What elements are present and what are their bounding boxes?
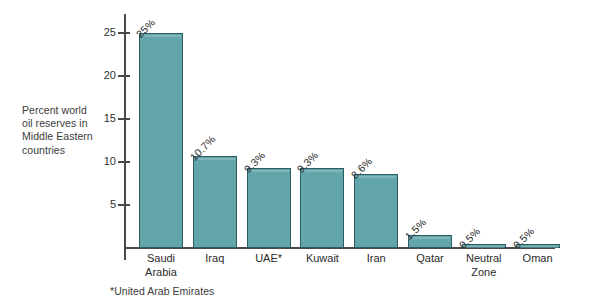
y-axis-line xyxy=(124,14,126,260)
y-axis-tick-label: 20 xyxy=(90,69,116,81)
bar-highlight xyxy=(410,237,450,239)
bar-highlight xyxy=(356,176,396,178)
y-axis-tick-label: 10 xyxy=(90,155,116,167)
y-axis-tick-label: 15 xyxy=(90,112,116,124)
bar-chart: Percent world oil reserves in Middle Eas… xyxy=(0,0,602,304)
bar-highlight xyxy=(302,170,342,172)
bar xyxy=(139,33,183,248)
y-axis-tick xyxy=(118,32,130,34)
bar-highlight xyxy=(141,35,181,37)
bar-highlight xyxy=(195,158,235,160)
y-axis-tick xyxy=(118,118,130,120)
plot-area: 510152025 25%10.7%9.3%9.3%8.6%1.5%0.5%0.… xyxy=(0,0,602,304)
y-axis-tick xyxy=(118,75,130,77)
bar xyxy=(354,174,398,248)
y-axis-tick-label: 5 xyxy=(90,198,116,210)
footnote: *United Arab Emirates xyxy=(110,285,214,297)
x-axis-category-label: Oman xyxy=(498,252,578,266)
y-axis-tick xyxy=(118,204,130,206)
y-axis-tick xyxy=(118,161,130,163)
y-axis-tick-label: 25 xyxy=(90,26,116,38)
bar xyxy=(247,168,291,248)
bar xyxy=(193,156,237,248)
bar xyxy=(300,168,344,248)
